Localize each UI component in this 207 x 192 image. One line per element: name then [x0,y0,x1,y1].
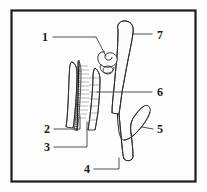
label-4: 4 [84,162,90,176]
label-3: 3 [44,140,50,154]
label-6: 6 [157,85,163,99]
label-2: 2 [44,122,50,136]
figure-background [0,0,207,192]
label-1: 1 [42,30,48,44]
label-7: 7 [157,28,163,42]
figure-illustration: 1 2 3 4 5 6 7 [0,0,207,192]
label-5: 5 [157,122,163,136]
figure-container: 1 2 3 4 5 6 7 [0,0,207,192]
